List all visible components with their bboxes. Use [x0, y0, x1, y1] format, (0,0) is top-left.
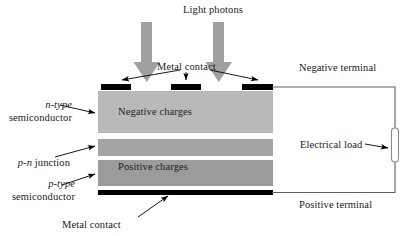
metal-contact-top-label: Metal contact [157, 61, 216, 73]
metal-contact-bottom [98, 190, 273, 195]
leader-electrical-load [365, 144, 388, 148]
negative-charges-label: Negative charges [118, 106, 192, 118]
leader-metal-contact-bottom [138, 196, 168, 217]
light-photon-arrow-left [134, 22, 161, 82]
pn-junction-layer [98, 139, 273, 156]
wire-positive-terminal [272, 162, 395, 193]
positive-terminal-label: Positive terminal [299, 199, 372, 211]
electrical-load-symbol [392, 128, 399, 162]
wire-negative-terminal [272, 87, 395, 128]
light-photons-label: Light photons [163, 4, 263, 16]
pn-junction-rest: junction [32, 157, 70, 168]
metal-contact-top-middle [171, 84, 201, 90]
p-type-line2: semiconductor [0, 191, 75, 204]
negative-terminal-label: Negative terminal [299, 62, 376, 74]
p-type-line1: p-type [0, 178, 75, 191]
p-type-semiconductor-label: p-type semiconductor [0, 178, 75, 203]
light-photon-arrow-right [206, 22, 233, 82]
pn-junction-label: p-n junction [0, 152, 70, 170]
electrical-load-label: Electrical load [300, 139, 362, 151]
pn-junction-italic: p-n [18, 157, 32, 168]
n-type-line2: semiconductor [0, 112, 72, 125]
n-type-semiconductor-label: n-type semiconductor [0, 99, 72, 124]
solar-cell-diagram: Light photons Metal contact Negative ter… [0, 0, 414, 236]
metal-contact-top-left [101, 84, 131, 90]
metal-contact-top-right [242, 84, 273, 90]
metal-contact-bottom-label: Metal contact [62, 219, 121, 231]
n-type-line1: n-type [0, 99, 72, 112]
positive-charges-label: Positive charges [118, 161, 188, 173]
